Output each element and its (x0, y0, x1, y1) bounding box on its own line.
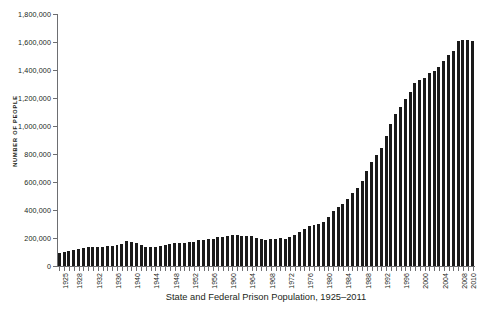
bar (370, 162, 373, 266)
x-tick-mark (98, 267, 99, 271)
x-tick-label: 1996 (403, 273, 410, 289)
bar (144, 247, 147, 266)
x-tick-mark (343, 267, 344, 271)
plot-area: 0200,000400,000600,000800,0001,000,0001,… (57, 14, 475, 266)
x-tick-mark (314, 267, 315, 271)
bar (375, 155, 378, 266)
bar (418, 80, 421, 266)
x-tick-mark (175, 267, 176, 271)
x-tick-mark (83, 267, 84, 271)
x-tick-label: 2008 (461, 273, 468, 289)
y-tick-mark (53, 266, 57, 267)
bar (433, 71, 436, 266)
y-tick-label: 1,800,000 (18, 10, 51, 19)
bar (159, 246, 162, 266)
bar (91, 247, 94, 266)
x-tick-mark (131, 267, 132, 271)
x-tick-mark (458, 267, 459, 271)
bar (236, 235, 239, 266)
bar (389, 124, 392, 266)
x-tick-mark (401, 267, 402, 271)
bar (245, 236, 248, 266)
bar (399, 107, 402, 266)
x-tick-mark (155, 267, 156, 271)
bar (293, 235, 296, 266)
x-tick-mark (453, 267, 454, 271)
bar (216, 237, 219, 266)
bar (120, 244, 123, 266)
x-tick-label: 2010 (470, 273, 477, 289)
bar (192, 242, 195, 266)
x-tick-label: 1980 (326, 273, 333, 289)
bar (423, 78, 426, 266)
x-tick-mark (396, 267, 397, 271)
bar (72, 250, 75, 266)
bar (394, 114, 397, 266)
x-tick-mark (405, 267, 406, 271)
x-tick-mark (449, 267, 450, 271)
x-tick-mark (333, 267, 334, 271)
bar (341, 204, 344, 266)
x-tick-mark (386, 267, 387, 271)
x-tick-mark (69, 267, 70, 271)
x-tick-mark (146, 267, 147, 271)
bar (317, 224, 320, 266)
bar (164, 245, 167, 266)
x-tick-mark (348, 267, 349, 271)
bar (130, 242, 133, 266)
bar (207, 239, 210, 266)
y-tick-label: 200,000 (24, 234, 51, 243)
bar (149, 247, 152, 266)
x-tick-mark (420, 267, 421, 271)
x-tick-mark (64, 267, 65, 271)
x-tick-mark (213, 267, 214, 271)
bar-series (57, 14, 475, 266)
x-tick-mark (362, 267, 363, 271)
x-tick-mark (381, 267, 382, 271)
x-tick-mark (112, 267, 113, 271)
bar (87, 247, 90, 266)
bar (125, 241, 128, 266)
x-tick-label: 1940 (134, 273, 141, 289)
chart-figure: NUMBER OF PEOPLE 0200,000400,000600,0008… (0, 0, 481, 311)
x-tick-label: 2000 (422, 273, 429, 289)
x-tick-label: 1964 (249, 273, 256, 289)
x-tick-label: 1936 (115, 273, 122, 289)
bar (82, 248, 85, 266)
x-tick-mark (434, 267, 435, 271)
x-tick-mark (247, 267, 248, 271)
bar (116, 245, 119, 266)
bar (327, 217, 330, 266)
x-tick-mark (280, 267, 281, 271)
bar (202, 240, 205, 266)
x-tick-mark (79, 267, 80, 271)
x-tick-label: 1960 (230, 273, 237, 289)
x-tick-mark (391, 267, 392, 271)
bar (385, 136, 388, 266)
x-tick-mark (242, 267, 243, 271)
bar (96, 247, 99, 266)
x-tick-mark (218, 267, 219, 271)
bar (135, 243, 138, 266)
bar (356, 188, 359, 267)
x-tick-mark (59, 267, 60, 271)
x-tick-mark (319, 267, 320, 271)
x-tick-mark (285, 267, 286, 271)
x-tick-mark (252, 267, 253, 271)
x-tick-mark (170, 267, 171, 271)
x-tick-mark (184, 267, 185, 271)
x-tick-mark (151, 267, 152, 271)
bar (298, 232, 301, 266)
bar (284, 239, 287, 266)
x-tick-mark (444, 267, 445, 271)
bar (313, 225, 316, 266)
x-tick-mark (324, 267, 325, 271)
x-tick-mark (93, 267, 94, 271)
x-tick-label: 1968 (269, 273, 276, 289)
x-tick-mark (261, 267, 262, 271)
bar (269, 239, 272, 266)
bar (101, 247, 104, 266)
bar (288, 237, 291, 266)
bar (471, 41, 474, 266)
bar (140, 245, 143, 266)
